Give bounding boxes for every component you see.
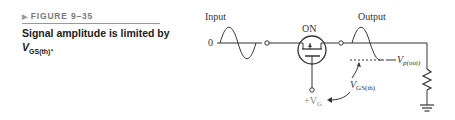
vp-out-label: Vp(out) (397, 54, 421, 67)
arrow-head-left-icon (327, 97, 332, 103)
gate-voltage-label: +VG (304, 95, 322, 108)
circuit-diagram: Input 0 ON +VG Output Vp(out) VGS(th) (0, 0, 455, 120)
output-sine-wave (352, 27, 384, 60)
gate-terminal (310, 88, 314, 92)
zero-label: 0 (208, 37, 213, 48)
input-terminal (265, 41, 269, 45)
ground-icon (420, 105, 434, 111)
arrow-to-gate (330, 92, 350, 100)
vgs-threshold-label: VGS(th) (350, 79, 376, 92)
state-label: ON (302, 23, 316, 34)
input-label: Input (205, 11, 226, 22)
output-label: Output (358, 11, 386, 22)
output-terminal (339, 41, 343, 45)
resistor-icon (423, 69, 431, 90)
mosfet-icon (296, 36, 328, 64)
